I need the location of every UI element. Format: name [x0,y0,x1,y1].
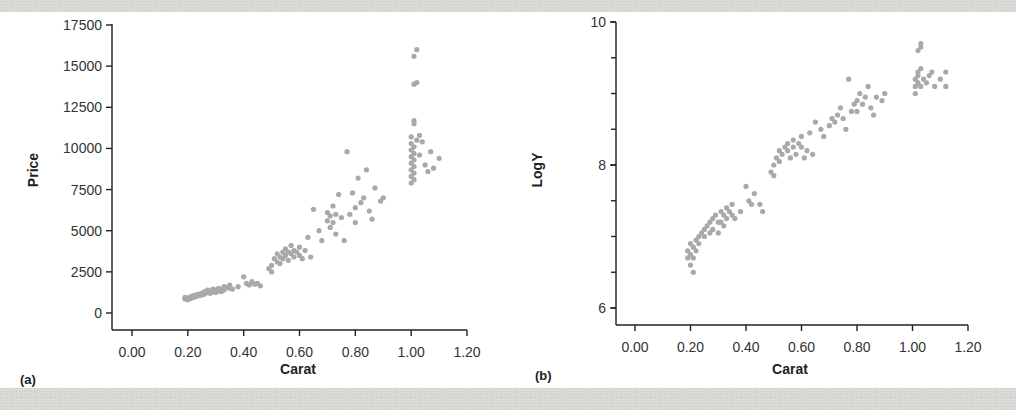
data-point [319,238,324,243]
chart-a-x-ticks: 0.000.200.400.600.801.001.20 [118,330,480,360]
data-point [297,245,302,250]
x-tick-label: 0.80 [342,344,369,360]
data-point [760,209,765,214]
data-point [437,156,442,161]
data-point [841,116,846,121]
data-point [788,155,793,160]
data-point [420,139,425,144]
data-point [277,261,282,266]
y-tick-label: 2500 [71,264,102,280]
data-point [291,254,296,259]
chart-a-y-axis-title: Price [25,153,41,187]
data-point [236,284,241,289]
data-point [269,263,274,268]
x-tick-label: 0.80 [843,339,870,355]
data-point [325,218,330,223]
data-point [411,164,416,169]
data-point [924,80,929,85]
data-point [358,200,363,205]
x-tick-label: 0.40 [732,339,759,355]
data-point [749,202,754,207]
data-point [411,177,416,182]
data-point [732,216,737,221]
data-point [943,69,948,74]
data-point [411,171,416,176]
data-point [738,209,743,214]
data-point [918,41,923,46]
data-point [827,123,832,128]
data-point [411,151,416,156]
data-point [350,190,355,195]
data-point [336,192,341,197]
chart-a-scatter-points [182,47,441,302]
x-tick-label: 1.00 [398,344,425,360]
data-point [802,155,807,160]
data-point [425,169,430,174]
data-point [372,185,377,190]
x-tick-label: 0.00 [621,339,648,355]
x-tick-label: 0.00 [118,344,145,360]
data-point [414,47,419,52]
data-point [813,120,818,125]
data-point [428,149,433,154]
chart-a-panel-label: (a) [20,372,36,387]
data-point [344,149,349,154]
data-point [316,228,321,233]
x-tick-label: 0.40 [230,344,257,360]
chart-b-x-ticks: 0.000.200.400.600.801.001.20 [621,325,981,355]
data-point [918,66,923,71]
y-tick-label: 8 [598,157,606,173]
data-point [785,148,790,153]
data-point [860,102,865,107]
data-point [849,109,854,114]
data-point [414,80,419,85]
data-point [846,77,851,82]
data-point [710,227,715,232]
data-point [863,95,868,100]
data-point [780,152,785,157]
y-tick-label: 15000 [63,58,102,74]
x-tick-label: 1.00 [899,339,926,355]
data-point [423,162,428,167]
data-point [411,157,416,162]
data-point [943,84,948,89]
chart-b-panel-label: (b) [535,368,552,383]
data-point [871,112,876,117]
y-tick-label: 0 [94,305,102,321]
data-point [793,152,798,157]
data-point [691,255,696,260]
data-point [364,167,369,172]
data-point [330,220,335,225]
data-point [913,91,918,96]
data-point [771,162,776,167]
chart-b-x-axis-title: Carat [772,361,808,377]
data-point [289,243,294,248]
chart-a-y-ticks: 025005000750010000125001500017500 [63,17,112,321]
data-point [367,208,372,213]
data-point [866,84,871,89]
data-point [305,235,310,240]
data-point [353,220,358,225]
data-point [804,148,809,153]
x-tick-label: 0.20 [677,339,704,355]
data-point [716,230,721,235]
chart-b-scatter-points [685,41,948,275]
data-point [799,134,804,139]
data-point [286,258,291,263]
data-point [688,263,693,268]
data-point [724,216,729,221]
x-tick-label: 0.20 [174,344,201,360]
data-point [757,202,762,207]
data-point [932,84,937,89]
data-point [411,54,416,59]
data-point [818,127,823,132]
x-tick-label: 1.20 [453,344,480,360]
data-point [409,134,414,139]
data-point [713,213,718,218]
x-tick-label: 0.60 [286,344,313,360]
data-point [414,138,419,143]
data-point [785,141,790,146]
data-point [918,84,923,89]
y-tick-label: 17500 [63,17,102,33]
data-point [333,212,338,217]
